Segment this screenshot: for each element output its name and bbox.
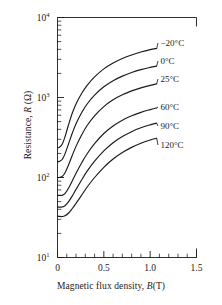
data-curve [58,138,157,216]
series-leader-line [157,43,158,48]
y-axis-title-suffix: (Ω) [23,91,33,107]
axis-ticks [58,18,197,258]
series-leader-line [157,61,158,66]
series-label: 120°C [161,140,184,150]
series-leader-lines [157,43,158,145]
series-label: 90°C [161,121,180,131]
y-axis-title: Resistance, R (Ω) [23,50,33,200]
x-tick-label: 0 [55,263,60,273]
x-tick-label: 1.5 [191,263,203,273]
y-axis-title-symbol: R [23,107,33,113]
series-label: 60°C [161,102,180,112]
series-label: 0°C [161,56,175,66]
series-leader-line [157,79,158,84]
x-tick-label: 0.5 [98,263,110,273]
x-axis-title-prefix: Magnetic flux density, [57,281,147,291]
x-axis-title-suffix: (T) [153,281,165,291]
y-axis-title-prefix: Resistance, [23,113,33,160]
data-curve [58,123,157,207]
y-axis-tick-labels: 101102103104 [37,11,51,263]
series-leader-line [157,138,158,145]
series-label: 25°C [161,74,180,84]
series-label: −20°C [161,38,185,48]
data-curve [58,108,157,196]
magnetoresistance-chart: 101102103104 00.51.01.5 −20°C0°C25°C60°C… [0,0,222,305]
y-tick-label: 101 [37,251,50,263]
x-axis-title: Magnetic flux density, B(T) [0,281,222,291]
series-labels: −20°C0°C25°C60°C90°C120°C [161,38,185,150]
series-leader-line [157,107,158,108]
data-curves [58,48,157,216]
axes-frame [58,18,197,258]
y-tick-label: 103 [37,91,51,103]
series-leader-line [157,123,158,126]
chart-canvas: 101102103104 00.51.01.5 −20°C0°C25°C60°C… [0,0,222,305]
y-tick-label: 104 [37,11,51,23]
x-tick-label: 1.0 [144,263,156,273]
x-axis-tick-labels: 00.51.01.5 [55,263,203,273]
y-tick-label: 102 [37,171,50,183]
